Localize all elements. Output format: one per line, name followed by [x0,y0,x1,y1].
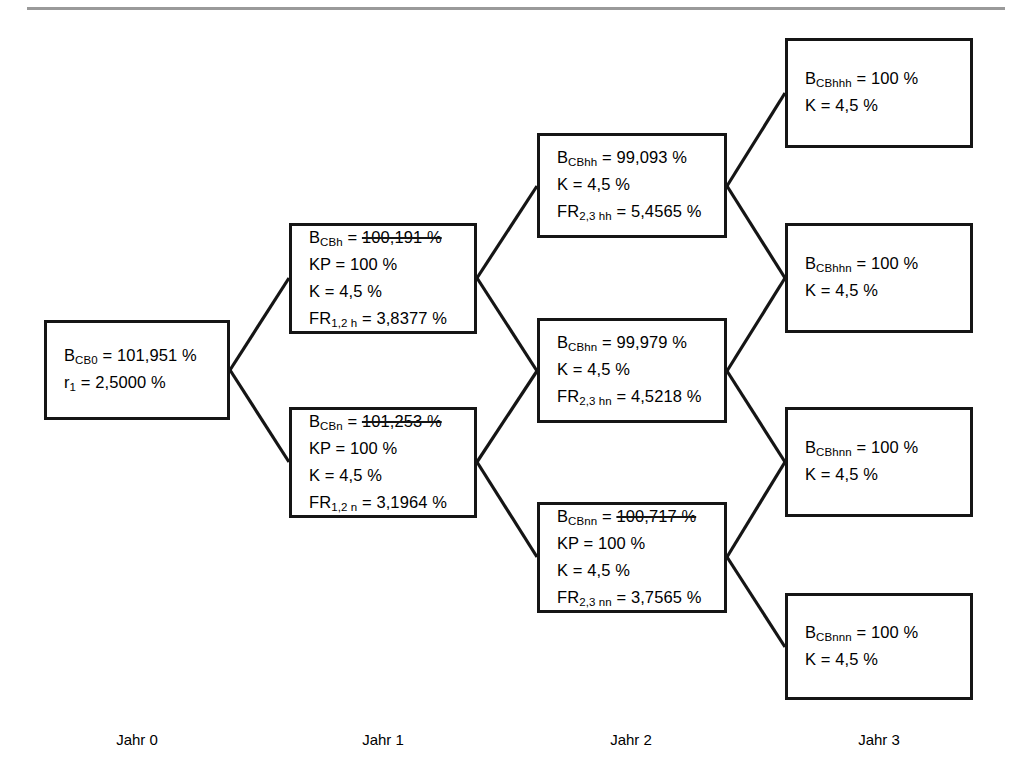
line-symbol: K [309,466,320,484]
edge-cbhh-cbhhh [727,93,785,186]
line-value: 4,5 % [835,281,878,299]
line-subscript: 2,3 hh [579,210,612,222]
line-value: 4,5 % [835,96,878,114]
line-symbol: FR [557,588,579,606]
line-value: 4,5 % [835,650,878,668]
node-line: BCBhnn = 100 % [805,435,962,462]
line-value: 100 % [871,254,918,272]
node-line: BCBn = 101,253 % [309,409,466,436]
edge-cb0-cbh [230,278,289,370]
line-value: 100 % [871,69,918,87]
line-symbol: B [805,623,816,641]
node-cbhh[interactable]: BCBhh = 99,093 % K = 4,5 % FR2,3 hh = 5,… [537,133,727,238]
node-line: FR2,3 nn = 3,7565 % [557,585,716,612]
line-value: 4,5 % [835,465,878,483]
node-line: K = 4,5 % [557,558,716,585]
line-value: 100 % [871,438,918,456]
line-subscript: CBn [320,420,343,432]
line-subscript: CBhh [568,156,597,168]
line-value: 2,5000 % [95,373,166,391]
line-value: 99,979 % [616,333,687,351]
line-symbol: K [805,281,816,299]
line-subscript: 1 [70,381,77,393]
node-cbhhn[interactable]: BCBhhn = 100 % K = 4,5 % [785,223,973,333]
node-line: BCBh = 100,191 % [309,225,466,252]
node-cb0[interactable]: BCB0 = 101,951 % r1 = 2,5000 % [44,320,230,420]
line-symbol: K [309,282,320,300]
node-line: KP = 100 % [557,531,716,558]
line-value: 101,253 % [362,412,442,430]
line-value: 100,191 % [362,228,442,246]
node-cbhnn[interactable]: BCBhnn = 100 % K = 4,5 % [785,407,973,517]
node-line: BCBnn = 100,717 % [557,504,716,531]
year-label-jahr2: Jahr 2 [551,731,711,748]
line-symbol: KP [557,534,579,552]
node-line: K = 4,5 % [805,93,962,120]
line-subscript: CBhhh [816,77,852,89]
edge-cbhn-cbhhn [727,278,785,371]
line-subscript: 2,3 hn [579,395,612,407]
line-symbol: B [557,507,568,525]
line-symbol: r [64,373,70,391]
node-line: K = 4,5 % [805,647,962,674]
line-value: 4,5 % [587,360,630,378]
node-line: FR2,3 hn = 4,5218 % [557,384,716,411]
year-label-jahr1: Jahr 1 [303,731,463,748]
node-cbhn[interactable]: BCBhn = 99,979 % K = 4,5 % FR2,3 hn = 4,… [537,318,727,423]
node-line: FR2,3 hh = 5,4565 % [557,199,716,226]
line-subscript: CBh [320,236,343,248]
line-value: 4,5 % [339,282,382,300]
node-line: BCBnnn = 100 % [805,620,962,647]
line-symbol: K [805,650,816,668]
node-line: r1 = 2,5000 % [64,370,219,397]
line-symbol: K [805,465,816,483]
edge-cbnn-cbnnn [727,557,785,647]
diagram-page: BCB0 = 101,951 % r1 = 2,5000 % BCBh = 10… [0,0,1014,781]
node-line: BCB0 = 101,951 % [64,343,219,370]
line-value: 100 % [598,534,645,552]
node-line: FR1,2 n = 3,1964 % [309,490,466,517]
node-line: K = 4,5 % [557,357,716,384]
node-line: K = 4,5 % [309,279,466,306]
node-cbhhh[interactable]: BCBhhh = 100 % K = 4,5 % [785,38,973,148]
node-cbh[interactable]: BCBh = 100,191 % KP = 100 % K = 4,5 % FR… [289,223,477,334]
line-symbol: K [557,360,568,378]
node-line: BCBhhn = 100 % [805,251,962,278]
node-line: KP = 100 % [309,252,466,279]
edge-cbh-cbhh [477,186,537,278]
node-line: K = 4,5 % [805,462,962,489]
edge-cbn-cbnn [477,462,537,557]
line-value: 100 % [871,623,918,641]
line-subscript: CBhn [568,341,597,353]
line-subscript: CB0 [75,354,98,366]
line-value: 4,5 % [339,466,382,484]
line-value: 99,093 % [616,148,687,166]
line-symbol: K [557,175,568,193]
node-cbnn[interactable]: BCBnn = 100,717 % KP = 100 % K = 4,5 % F… [537,502,727,613]
line-symbol: K [805,96,816,114]
year-label-jahr3: Jahr 3 [799,731,959,748]
edge-cbhn-cbhnn [727,371,785,462]
edge-cbh-cbhn [477,278,537,371]
line-value: 100,717 % [616,507,696,525]
line-subscript: CBnnn [816,631,852,643]
node-cbnnn[interactable]: BCBnnn = 100 % K = 4,5 % [785,593,973,700]
year-label-jahr0: Jahr 0 [57,731,217,748]
node-line: KP = 100 % [309,436,466,463]
line-subscript: 1,2 n [331,501,357,513]
line-subscript: 1,2 h [331,317,357,329]
line-value: 5,4565 % [631,202,702,220]
line-value: 100 % [350,255,397,273]
line-subscript: 2,3 nn [579,596,612,608]
node-line: BCBhhh = 100 % [805,66,962,93]
line-subscript: CBhhn [816,262,852,274]
line-symbol: KP [309,255,331,273]
node-line: K = 4,5 % [557,172,716,199]
line-value: 4,5 % [587,175,630,193]
node-cbn[interactable]: BCBn = 101,253 % KP = 100 % K = 4,5 % FR… [289,407,477,518]
edge-cbhh-cbhhn [727,186,785,278]
line-symbol: B [309,228,320,246]
line-value: 100 % [350,439,397,457]
node-line: K = 4,5 % [805,278,962,305]
line-symbol: KP [309,439,331,457]
